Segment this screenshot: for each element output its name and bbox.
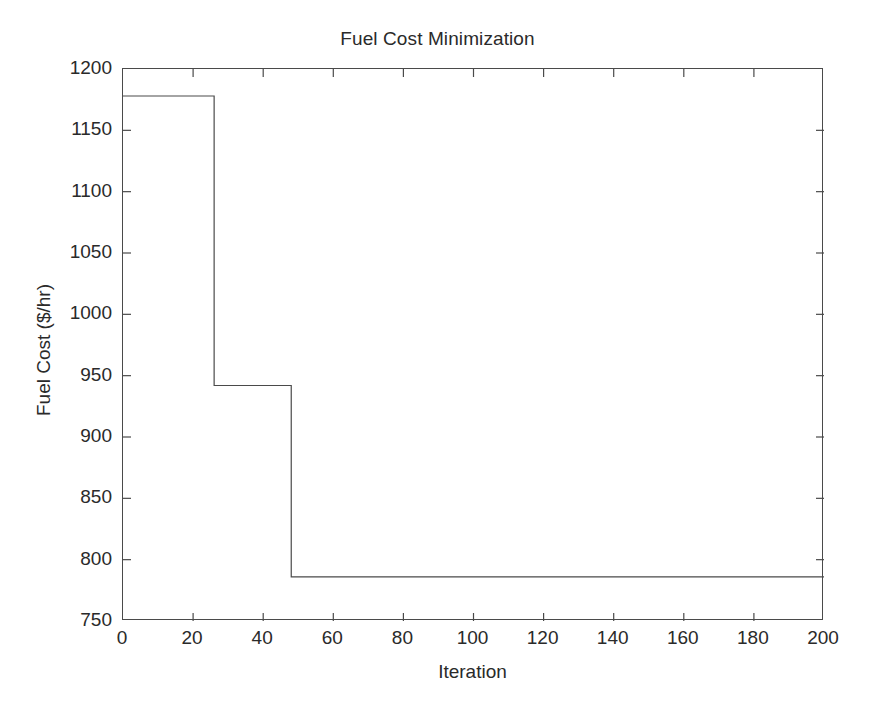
x-tick-label: 40 — [252, 628, 273, 647]
x-tick-label: 0 — [117, 628, 128, 647]
y-axis-tick-labels: 75080085090095010001050110011501200 — [0, 0, 112, 712]
x-axis-label: Iteration — [122, 661, 823, 683]
axis-tick-marks — [123, 69, 824, 621]
y-tick-label: 750 — [80, 610, 112, 629]
x-tick-label: 100 — [457, 628, 489, 647]
x-tick-label: 60 — [322, 628, 343, 647]
y-tick-label: 1050 — [70, 242, 112, 261]
data-line-svg — [123, 69, 824, 621]
y-tick-label: 1150 — [71, 119, 112, 138]
chart-title: Fuel Cost Minimization — [0, 28, 875, 50]
y-tick-label: 1100 — [71, 181, 112, 200]
series-best-fuel-cost-line — [123, 96, 824, 577]
x-axis-tick-labels: 020406080100120140160180200 — [0, 628, 875, 658]
y-tick-label: 1200 — [70, 58, 112, 77]
x-tick-label: 140 — [597, 628, 629, 647]
x-tick-label: 20 — [182, 628, 203, 647]
x-tick-label: 120 — [527, 628, 559, 647]
plot-area — [122, 68, 823, 620]
x-tick-label: 160 — [667, 628, 699, 647]
y-tick-label: 1000 — [70, 303, 112, 322]
y-tick-label: 800 — [80, 549, 112, 568]
x-tick-label: 180 — [737, 628, 769, 647]
y-tick-label: 850 — [80, 487, 112, 506]
y-tick-label: 950 — [80, 365, 112, 384]
y-tick-label: 900 — [80, 426, 112, 445]
chart-figure: Fuel Cost Minimization Fuel Cost ($/hr) … — [0, 0, 875, 712]
x-tick-label: 200 — [807, 628, 839, 647]
x-tick-label: 80 — [392, 628, 413, 647]
